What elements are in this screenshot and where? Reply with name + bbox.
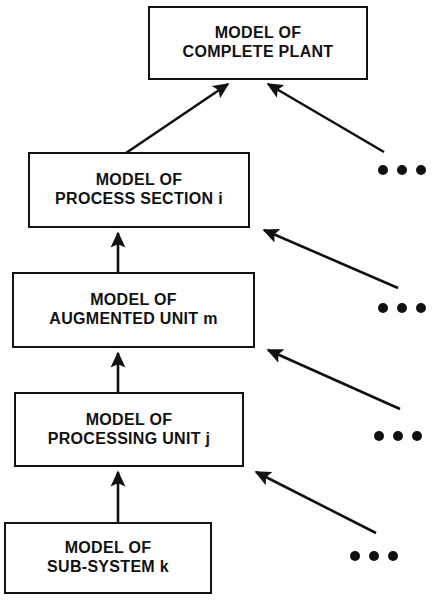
node-augmented-unit[interactable]: MODEL OF AUGMENTED UNIT m [12, 272, 255, 348]
node-processing-unit-line2: PROCESSING UNIT j [48, 430, 210, 449]
node-sub-system-line1: MODEL OF [65, 539, 152, 558]
ellipsis-dot [397, 303, 407, 313]
arrow-peer-to-process-section [264, 230, 398, 288]
ellipsis-dot [369, 551, 379, 561]
node-complete-plant-line1: MODEL OF [215, 24, 302, 43]
ellipsis-dot [397, 165, 407, 175]
ellipsis-icon-level-4 [350, 551, 398, 561]
node-sub-system[interactable]: MODEL OF SUB-SYSTEM k [4, 522, 212, 594]
node-processing-unit[interactable]: MODEL OF PROCESSING UNIT j [14, 392, 244, 467]
ellipsis-dot [416, 165, 426, 175]
ellipsis-dot [416, 303, 426, 313]
ellipsis-dot [350, 551, 360, 561]
ellipsis-dot [393, 431, 403, 441]
node-complete-plant-line2: COMPLETE PLANT [183, 43, 334, 62]
node-process-section-line2: PROCESS SECTION i [55, 190, 223, 209]
node-process-section[interactable]: MODEL OF PROCESS SECTION i [28, 152, 250, 228]
ellipsis-icon-level-1 [378, 165, 426, 175]
ellipsis-dot [374, 431, 384, 441]
node-sub-system-line2: SUB-SYSTEM k [47, 558, 169, 577]
ellipsis-dot [378, 303, 388, 313]
diagram-canvas: MODEL OF COMPLETE PLANT MODEL OF PROCESS… [0, 0, 444, 610]
arrow-peer-to-complete-plant [268, 84, 384, 152]
node-augmented-unit-line2: AUGMENTED UNIT m [49, 310, 217, 329]
arrow-peer-to-augmented-unit [268, 350, 400, 409]
ellipsis-dot [388, 551, 398, 561]
ellipsis-icon-level-3 [374, 431, 422, 441]
node-complete-plant[interactable]: MODEL OF COMPLETE PLANT [148, 6, 368, 80]
node-process-section-line1: MODEL OF [96, 171, 183, 190]
node-processing-unit-line1: MODEL OF [86, 411, 173, 430]
ellipsis-dot [378, 165, 388, 175]
ellipsis-dot [412, 431, 422, 441]
ellipsis-icon-level-2 [378, 303, 426, 313]
arrow-process-section-to-complete-plant [126, 84, 228, 153]
arrow-peer-to-processing-unit [256, 472, 376, 533]
node-augmented-unit-line1: MODEL OF [90, 291, 177, 310]
